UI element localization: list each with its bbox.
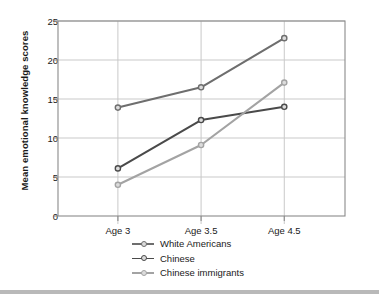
x-tick-label-2: Age 4.5 — [268, 225, 301, 236]
legend-item-1: Chinese — [132, 252, 244, 265]
chart-legend: White AmericansChineseChinese immigrants — [132, 237, 244, 279]
data-point — [282, 36, 287, 41]
legend-label: Chinese — [160, 253, 195, 264]
chart-figure: Mean emotional knowledge scores 05101520… — [0, 0, 379, 294]
legend-marker-icon — [132, 254, 154, 263]
data-point — [198, 85, 203, 90]
legend-marker-icon — [132, 268, 154, 277]
legend-marker-icon — [132, 239, 154, 248]
data-point — [115, 182, 120, 187]
data-point — [198, 142, 203, 147]
legend-label: Chinese immigrants — [160, 267, 244, 278]
data-point — [115, 105, 120, 110]
legend-item-2: Chinese immigrants — [132, 266, 244, 279]
legend-item-0: White Americans — [132, 237, 244, 250]
data-point — [198, 117, 203, 122]
bottom-edge-bar — [0, 290, 379, 294]
x-tick-label-0: Age 3 — [105, 225, 130, 236]
x-tick-label-1: Age 3.5 — [185, 225, 218, 236]
data-point — [115, 166, 120, 171]
data-point — [282, 80, 287, 85]
legend-label: White Americans — [160, 238, 231, 249]
data-point — [282, 104, 287, 109]
